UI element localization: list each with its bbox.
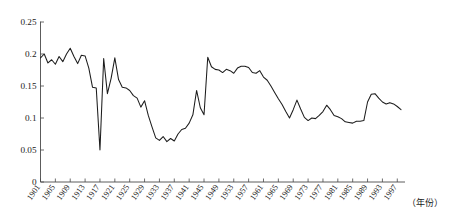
x-tick-label: 1961	[248, 183, 265, 202]
x-tick-label: 1985	[337, 183, 354, 202]
x-tick-label: 1945	[189, 183, 206, 202]
y-tick-label: 0.05	[20, 145, 36, 155]
series-line	[41, 48, 402, 150]
x-axis: 1901190519091913191719211925192919331937…	[25, 179, 405, 202]
x-tick-label: 1933	[144, 183, 161, 202]
x-tick-label: 1973	[293, 183, 310, 202]
y-tick-label: 0.15	[20, 81, 36, 91]
x-tick-label: 1953	[218, 183, 235, 202]
x-tick-label: 1981	[322, 183, 339, 202]
x-tick-label: 1913	[70, 183, 87, 202]
x-tick-label: 1917	[85, 183, 102, 202]
x-tick-label: 1941	[174, 183, 191, 202]
line-chart: 00.050.10.150.20.25 19011905190919131917…	[0, 0, 449, 223]
x-tick-label: 1977	[308, 183, 325, 202]
x-tick-label: 1997	[382, 183, 399, 202]
x-axis-caption-text: （年份）	[407, 197, 443, 208]
x-tick-label: 1989	[352, 183, 369, 202]
x-tick-label: 1925	[114, 183, 131, 202]
data-series-group	[41, 48, 402, 150]
x-tick-label: 1909	[55, 183, 72, 202]
x-tick-label: 1921	[99, 183, 116, 202]
x-tick-label: 1937	[159, 183, 176, 202]
y-tick-label: 0.1	[25, 113, 37, 123]
x-tick-label: 1993	[367, 183, 384, 202]
x-tick-label: 1969	[278, 183, 295, 202]
x-axis-caption: （年份）	[407, 197, 443, 208]
x-tick-label: 1905	[40, 183, 57, 202]
x-tick-label: 1949	[204, 183, 221, 202]
y-tick-label: 0.2	[25, 49, 37, 59]
x-tick-label: 1901	[25, 183, 42, 202]
x-tick-label: 1957	[233, 183, 250, 202]
y-tick-label: 0.25	[20, 17, 36, 27]
chart-canvas: 00.050.10.150.20.25 19011905190919131917…	[0, 0, 449, 223]
x-tick-label: 1929	[129, 183, 146, 202]
x-tick-label: 1965	[263, 183, 280, 202]
y-axis: 00.050.10.150.20.25	[20, 17, 44, 187]
